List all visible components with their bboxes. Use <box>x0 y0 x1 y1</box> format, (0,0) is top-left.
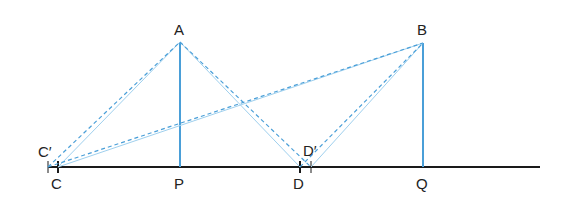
diagram: A B P Q C C′ D D′ <box>0 0 566 208</box>
label-D: D <box>293 176 304 191</box>
segment-DB <box>300 43 423 167</box>
label-C: C <box>51 176 62 191</box>
label-B: B <box>417 22 427 37</box>
label-A: A <box>174 22 184 37</box>
label-C-prime: C′ <box>38 144 52 159</box>
label-Q: Q <box>416 176 428 191</box>
segment-CA <box>58 42 180 167</box>
label-P: P <box>174 176 184 191</box>
segment-A-D-prime <box>180 42 311 167</box>
label-D-prime: D′ <box>303 143 317 158</box>
segment-AD <box>180 42 300 167</box>
geometry-figure <box>0 0 566 208</box>
